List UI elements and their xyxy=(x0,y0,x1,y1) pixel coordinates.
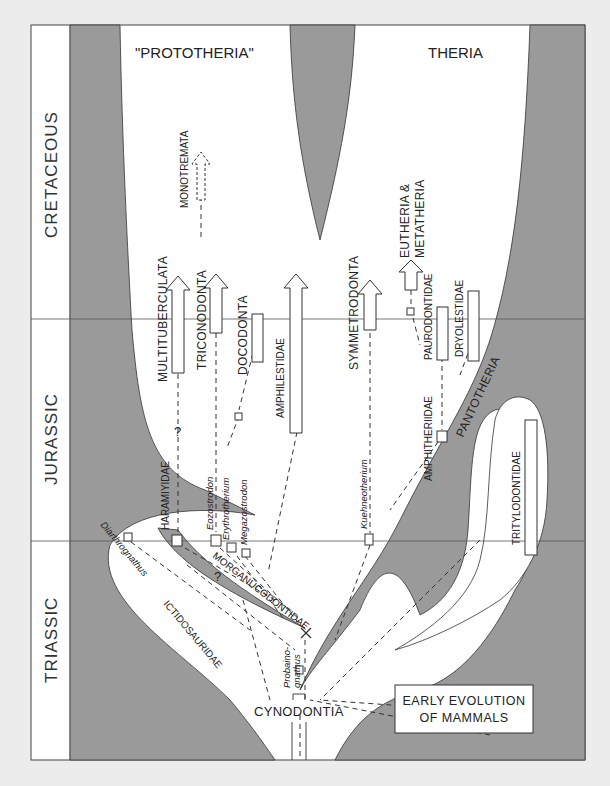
label-cynodontia: CYNODONTIA xyxy=(254,704,344,719)
dryolestidae-bar xyxy=(468,291,479,361)
header-prototheria: "PROTOTHERIA" xyxy=(135,44,254,61)
tritylodontidae-bar xyxy=(525,420,537,555)
genus-megazostrodon: Megazostrodon xyxy=(238,480,249,545)
docodonta-bar xyxy=(252,314,263,362)
label-metatheria-line: METATHERIA xyxy=(413,179,427,258)
label-eutheria: EUTHERIA & xyxy=(398,184,412,258)
label-amphitheriidae: AMPHITHERIIDAE xyxy=(423,396,434,481)
label-paurodontidae: PAURODONTIDAE xyxy=(423,273,434,360)
paurodontidae-bar xyxy=(437,307,448,360)
label-tritylodontidae: TRITYLODONTIDAE xyxy=(511,451,522,545)
uncertainty-mark-haramiyidae: ? xyxy=(174,424,181,439)
label-dryolestidae: DRYOLESTIDAE xyxy=(454,280,465,357)
title-box: EARLY EVOLUTION OF MAMMALS xyxy=(395,685,533,733)
label-monotremata: MONOTREMATA xyxy=(179,130,190,208)
genus-probainognathus-2: gnathus xyxy=(291,654,302,688)
label-multituberculata: MULTITUBERCULATA xyxy=(156,256,170,382)
label-docodonta: DOCODONTA xyxy=(236,295,250,375)
genus-eozostrodon: Eozostrodon xyxy=(204,477,215,530)
genus-kuehneotherium: Kuehneotherium xyxy=(358,459,369,529)
label-triconodonta: TRICONODONTA xyxy=(195,270,209,370)
title-line-2: OF MAMMALS xyxy=(419,711,508,725)
early-evolution-of-mammals-diagram: "PROTOTHERIA" THERIA CRETACEOUS JURASSIC… xyxy=(0,0,610,786)
period-cretaceous: CRETACEOUS xyxy=(42,111,61,238)
label-symmetrodonta: SYMMETRODONTA xyxy=(347,256,361,370)
label-haramiyidae: HARAMIYIDAE xyxy=(160,461,171,530)
uncertainty-mark-morganucodontidae: ? xyxy=(214,569,221,584)
label-amphilestidae: AMPHILESTIDAE xyxy=(275,338,286,418)
period-jurassic: JURASSIC xyxy=(42,393,61,485)
genus-erythrotherium: Erythrotherium xyxy=(220,478,231,540)
title-line-1: EARLY EVOLUTION xyxy=(402,694,525,708)
period-triassic: TRIASSIC xyxy=(42,597,61,683)
header-theria: THERIA xyxy=(428,44,483,61)
